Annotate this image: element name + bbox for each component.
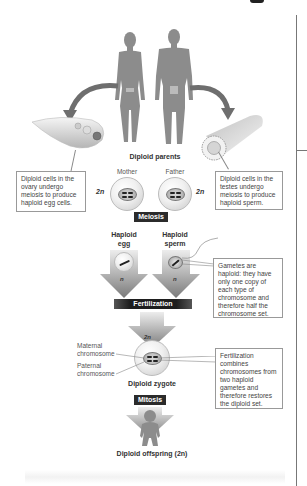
haploid-egg-label-2: egg: [104, 240, 144, 247]
diploid-zygote-label: Diploid zygote: [112, 380, 192, 387]
ovary-callout: Diploid cells in the ovary undergo meios…: [16, 171, 86, 212]
father-nucleus: [166, 188, 185, 201]
seminiferous-tubule-illustration-icon: [200, 112, 266, 162]
egg-ploidy-label: n: [120, 276, 124, 282]
haploid-egg-cell: [114, 252, 134, 272]
page-border-line: [296, 15, 297, 486]
mother-ploidy-label: 2n: [96, 188, 104, 195]
testes-callout: Diploid cells in the testes undergo meio…: [215, 171, 283, 210]
maternal-chromosome-label-2: chromosome: [77, 350, 115, 358]
gametes-callout: Gametes are haploid: they have only one …: [213, 258, 283, 318]
page-border-tick: [296, 150, 307, 151]
mother-label: Mother: [110, 168, 144, 176]
mother-nucleus: [118, 188, 137, 201]
mitosis-tag: Mitosis: [134, 395, 166, 405]
heading-fragment: [250, 0, 264, 3]
diploid-offspring-label: Diploid offspring (2n): [100, 450, 204, 457]
mother-diploid-cell: [110, 177, 144, 211]
diploid-parents-label: Diploid parents: [115, 153, 195, 160]
bottom-caption-band: [25, 470, 285, 484]
maternal-chromosome-label-1: Maternal: [77, 342, 102, 350]
chromosome-leader-lines: [116, 350, 146, 376]
fertilization-callout: Fertilization combines chromosomes from …: [215, 348, 283, 409]
ovary-illustration-icon: [30, 108, 110, 152]
fertilization-tag: Fertilization: [114, 299, 192, 309]
paternal-chromosome-label-2: chromosome: [77, 370, 115, 378]
gametes-callout-leader: [182, 258, 214, 272]
father-ploidy-label: 2n: [196, 188, 204, 195]
ovary-callout-leader: [70, 150, 76, 172]
father-label: Father: [158, 168, 192, 176]
meiosis-tag: Meiosis: [134, 212, 168, 222]
haploid-egg-label-1: Haploid: [104, 231, 144, 238]
baby-figure-icon: [136, 408, 164, 448]
sperm-ploidy-label: n: [173, 276, 177, 282]
paternal-chromosome-label-1: Paternal: [77, 362, 101, 370]
father-diploid-cell: [158, 177, 192, 211]
fertilization-callout-leader: [158, 356, 216, 364]
